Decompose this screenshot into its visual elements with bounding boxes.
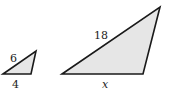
small-triangle: [3, 51, 36, 74]
large-triangle: [62, 7, 160, 74]
large-triangle-hyp-label: 18: [94, 29, 108, 42]
small-triangle-base-label: 4: [12, 78, 19, 91]
small-triangle-hyp-label: 6: [10, 52, 17, 65]
similar-triangles-diagram: 6 4 18 x: [0, 0, 170, 91]
large-triangle-base-label: x: [102, 78, 109, 91]
